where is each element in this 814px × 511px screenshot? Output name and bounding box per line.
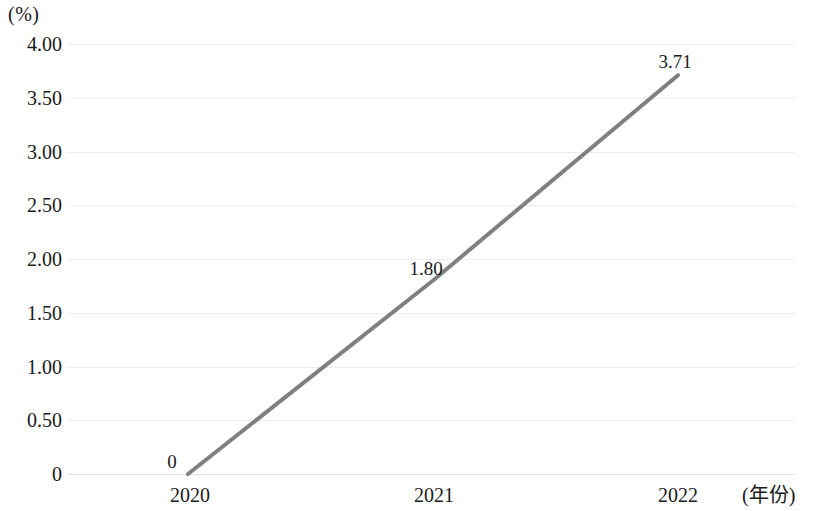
y-tick-label: 0.50 [0, 410, 62, 430]
plot-area: 0 1.80 3.71 [68, 44, 795, 474]
y-axis-tick-labels: 4.00 3.50 3.00 2.50 2.00 1.50 1.00 0.50 … [0, 0, 62, 511]
y-tick-label: 0 [0, 464, 62, 484]
x-axis-unit-label: (年份) [742, 482, 795, 508]
x-tick-label: 2020 [170, 482, 210, 508]
y-tick-label: 2.00 [0, 249, 62, 269]
line-chart: (%) 4.00 3.50 3.00 2.50 2.00 1.50 1.00 0… [0, 0, 814, 511]
y-tick-label: 1.00 [0, 357, 62, 377]
data-point-label: 3.71 [658, 51, 691, 73]
y-tick-label: 1.50 [0, 303, 62, 323]
x-axis-baseline [68, 474, 795, 475]
y-tick-label: 3.00 [0, 142, 62, 162]
y-tick-label: 2.50 [0, 195, 62, 215]
data-point-label: 1.80 [409, 258, 442, 280]
data-point-label: 0 [167, 451, 177, 473]
y-tick-label: 4.00 [0, 34, 62, 54]
x-tick-label: 2022 [658, 482, 698, 508]
x-tick-label: 2021 [414, 482, 454, 508]
y-tick-label: 3.50 [0, 88, 62, 108]
